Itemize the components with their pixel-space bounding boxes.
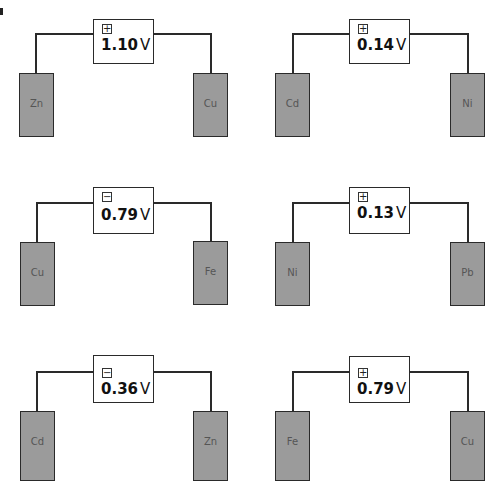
electrode-label: Ni [451,98,484,109]
polarity-sign-icon: − [102,192,112,202]
voltage-reading: 0.36V [101,380,150,398]
right-wire-vertical [210,202,212,243]
left-wire-vertical [292,202,294,243]
voltmeter: − 0.36V [93,355,154,403]
voltage-reading: 0.14V [357,36,406,54]
right-wire-vertical [467,202,469,243]
voltage-value: 0.79 [101,206,138,224]
left-wire-horizontal [292,33,349,35]
right-wire-vertical [210,371,212,412]
left-electrode: Ni [275,242,310,306]
right-wire-horizontal [410,33,468,35]
polarity-sign-icon: + [358,192,368,202]
electrode-label: Cd [21,436,54,447]
left-wire-vertical [36,202,38,243]
left-wire-horizontal [292,371,349,373]
left-wire-horizontal [36,371,93,373]
voltmeter: + 0.79V [349,356,410,403]
right-electrode: Cu [450,411,485,481]
voltmeter: + 0.13V [349,187,410,234]
left-electrode: Cd [20,411,55,481]
voltage-unit: V [396,204,406,222]
right-wire-horizontal [154,202,211,204]
electrode-label: Cd [276,98,309,109]
polarity-sign-icon: − [102,368,112,378]
voltage-reading: 0.13V [357,204,406,222]
voltage-unit: V [396,380,406,398]
voltage-unit: V [140,380,150,398]
right-wire-horizontal [410,371,468,373]
electrode-label: Cu [451,436,484,447]
left-wire-horizontal [36,202,93,204]
right-electrode: Ni [450,73,485,137]
right-wire-horizontal [154,371,211,373]
right-electrode: Fe [193,241,228,305]
electrode-label: Cu [21,267,54,278]
electrode-label: Zn [194,436,227,447]
right-electrode: Pb [450,242,485,306]
left-wire-vertical [292,33,294,74]
galvanic-cell-6: + 0.79V Fe Cu [0,0,243,160]
right-wire-vertical [467,33,469,74]
voltage-unit: V [140,206,150,224]
voltage-value: 0.36 [101,380,138,398]
right-electrode: Zn [193,411,228,481]
left-wire-vertical [36,371,38,412]
voltage-reading: 0.79V [101,206,150,224]
left-electrode: Cu [20,242,55,306]
voltmeter: − 0.79V [93,187,154,234]
right-wire-horizontal [410,202,468,204]
left-electrode: Fe [275,411,310,481]
left-wire-horizontal [292,202,349,204]
electrode-label: Ni [276,267,309,278]
voltage-unit: V [396,36,406,54]
left-wire-vertical [292,371,294,412]
polarity-sign-icon: + [358,368,368,378]
voltage-reading: 0.79V [357,380,406,398]
polarity-sign-icon: + [358,24,368,34]
right-wire-vertical [467,371,469,412]
voltage-value: 0.14 [357,36,394,54]
electrode-label: Fe [276,436,309,447]
voltage-value: 0.79 [357,380,394,398]
left-electrode: Cd [275,73,310,137]
voltage-value: 0.13 [357,204,394,222]
electrode-label: Fe [194,266,227,277]
voltmeter: + 0.14V [349,19,410,64]
electrode-label: Pb [451,267,484,278]
